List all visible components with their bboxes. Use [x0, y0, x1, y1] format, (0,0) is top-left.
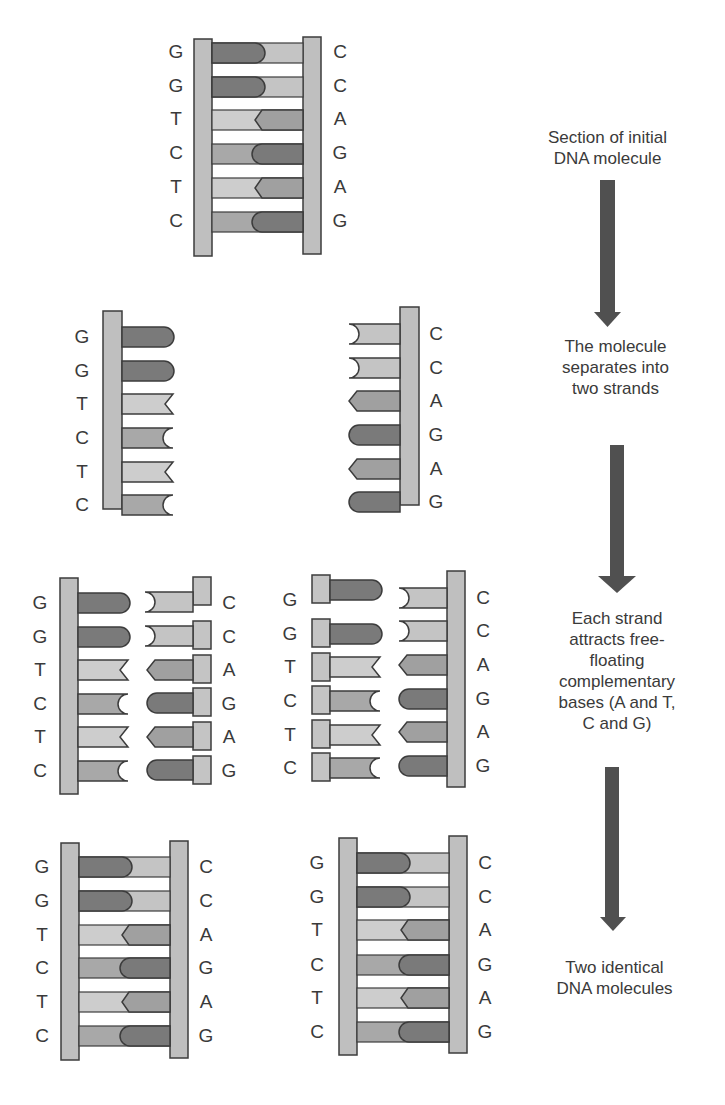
base-label: A	[426, 391, 446, 411]
base-label: C	[196, 857, 216, 877]
base-label: T	[72, 462, 92, 482]
base-label: C	[330, 76, 350, 96]
base-label: G	[32, 857, 52, 877]
base-label: C	[30, 761, 50, 781]
base-label: T	[30, 727, 50, 747]
base-label: T	[307, 988, 327, 1008]
base-label: A	[330, 109, 350, 129]
base-label: T	[307, 920, 327, 940]
base-label: C	[307, 1022, 327, 1042]
base-label: A	[473, 722, 493, 742]
base-label: A	[475, 988, 495, 1008]
base-label: T	[166, 109, 186, 129]
base-label: C	[72, 428, 92, 448]
base-pair-g-c	[212, 77, 303, 97]
initial-dna-molecule	[194, 37, 321, 256]
base-label: G	[219, 761, 239, 781]
step-caption-final: Two identical DNA molecules	[527, 957, 702, 999]
base-label: C	[30, 694, 50, 714]
base-label: G	[280, 590, 300, 610]
base-label: A	[426, 459, 446, 479]
base-label: G	[32, 891, 52, 911]
base-label: A	[196, 992, 216, 1012]
base-label: A	[219, 660, 239, 680]
dna-replication-diagram: G G T C T C C C A G A G G G T C T C C C …	[0, 0, 725, 1105]
base-label: G	[426, 492, 446, 512]
step-caption-attracting: Each strand attracts free- floating comp…	[527, 608, 707, 734]
base-label: G	[219, 694, 239, 714]
base-label: G	[473, 689, 493, 709]
base-label: G	[426, 425, 446, 445]
base-label: C	[32, 1026, 52, 1046]
base-label: T	[72, 394, 92, 414]
base-label: G	[30, 627, 50, 647]
base-label: C	[426, 358, 446, 378]
base-label: T	[32, 925, 52, 945]
base-label: T	[166, 177, 186, 197]
attracting-group-left	[60, 577, 211, 794]
base-label: G	[280, 624, 300, 644]
base-label: G	[307, 887, 327, 907]
base-label: T	[280, 725, 300, 745]
backbone-right	[303, 37, 321, 254]
step-caption-separated: The molecule separates into two strands	[528, 336, 703, 399]
base-label: G	[330, 143, 350, 163]
base-label: T	[30, 660, 50, 680]
base-label: C	[280, 758, 300, 778]
base-label: C	[72, 495, 92, 515]
final-dna-molecule-1	[61, 841, 188, 1060]
attracting-group-right	[312, 571, 465, 787]
base-label: C	[196, 891, 216, 911]
base-label: G	[475, 955, 495, 975]
backbone-left	[194, 39, 212, 256]
base-label: C	[473, 588, 493, 608]
free-nucleotides	[145, 577, 211, 784]
base-label: G	[330, 211, 350, 231]
separated-left-strand	[103, 311, 174, 515]
base-label: T	[32, 992, 52, 1012]
base-pair-t-a	[212, 178, 303, 198]
down-arrow-icon	[600, 767, 626, 931]
base-label: G	[166, 42, 186, 62]
base-label: C	[475, 887, 495, 907]
base-label: C	[307, 955, 327, 975]
base-label: C	[166, 211, 186, 231]
base-pair-c-g	[212, 212, 303, 232]
base-label: A	[473, 655, 493, 675]
base-label: C	[166, 143, 186, 163]
final-dna-molecule-2	[339, 836, 467, 1055]
base-label: C	[32, 958, 52, 978]
down-arrow-icon	[598, 445, 636, 593]
free-nucleotides	[312, 575, 382, 781]
base-label: G	[166, 76, 186, 96]
base-label: G	[72, 361, 92, 381]
base-pair-g-c	[212, 43, 303, 63]
base-label: C	[219, 627, 239, 647]
base-label: G	[196, 958, 216, 978]
base-label: C	[426, 324, 446, 344]
base-label: G	[30, 593, 50, 613]
base-label: A	[196, 925, 216, 945]
step-caption-initial: Section of initial DNA molecule	[520, 127, 695, 169]
down-arrow-icon	[594, 180, 621, 327]
separated-right-strand	[349, 307, 419, 512]
base-label: G	[307, 853, 327, 873]
base-label: C	[473, 621, 493, 641]
base-label: T	[280, 657, 300, 677]
base-label: A	[475, 920, 495, 940]
base-label: C	[475, 853, 495, 873]
base-label: G	[72, 327, 92, 347]
base-label: A	[330, 177, 350, 197]
base-label: G	[475, 1022, 495, 1042]
base-label: C	[330, 42, 350, 62]
base-label: G	[473, 756, 493, 776]
base-label: A	[219, 727, 239, 747]
base-pair-t-a	[212, 110, 303, 130]
base-label: G	[196, 1026, 216, 1046]
base-label: C	[219, 593, 239, 613]
base-pair-c-g	[212, 144, 303, 164]
base-label: C	[280, 691, 300, 711]
